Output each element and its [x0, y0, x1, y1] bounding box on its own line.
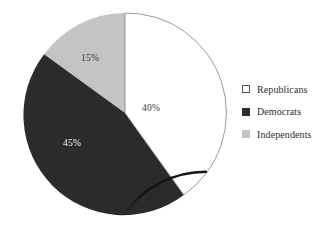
legend-label-republicans: Republicans: [257, 84, 308, 95]
legend-label-democrats: Democrats: [257, 106, 301, 117]
slice-label-independents: 15%: [81, 53, 99, 63]
legend-swatch-independents: [242, 130, 250, 138]
pie-plot-area: 40% 45% 15%: [0, 0, 232, 235]
slice-label-democrats: 45%: [63, 138, 81, 148]
legend-swatch-republicans: [242, 85, 250, 93]
legend-item-republicans[interactable]: Republicans: [242, 78, 332, 101]
legend-swatch-democrats: [242, 108, 250, 116]
slice-label-republicans: 40%: [142, 103, 160, 113]
legend-item-democrats[interactable]: Democrats: [242, 101, 332, 124]
legend-label-independents: Independents: [257, 129, 312, 140]
pie-svg: 40% 45% 15%: [0, 0, 232, 235]
pie-chart-figure: 40% 45% 15% Republicans Democrats Indepe…: [0, 0, 332, 235]
legend-item-independents[interactable]: Independents: [242, 123, 332, 146]
chart-legend: Republicans Democrats Independents: [242, 78, 332, 146]
